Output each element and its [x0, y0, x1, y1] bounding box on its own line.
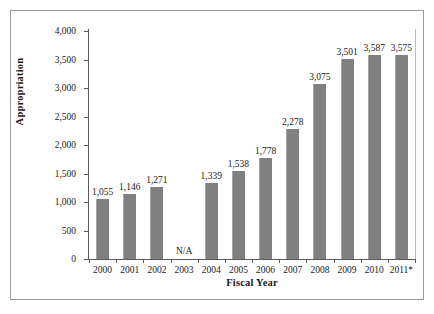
bar: [313, 84, 326, 259]
x-tick-mark: [361, 259, 362, 263]
bar: [368, 55, 381, 259]
y-tick-mark: [84, 145, 89, 146]
x-tick-mark: [279, 259, 280, 263]
y-tick-label: 2,000: [30, 140, 76, 150]
bar-value-label: 1,339: [189, 171, 233, 181]
bar-value-label: 3,575: [379, 43, 423, 53]
bar: [286, 129, 299, 259]
x-axis-title: Fiscal Year: [89, 277, 415, 288]
y-tick-label: 500: [30, 226, 76, 236]
x-tick-label: 2011*: [379, 265, 423, 276]
missing-data-label: N/A: [162, 246, 206, 256]
bar-value-label: 2,278: [271, 117, 315, 127]
x-tick-mark: [415, 259, 416, 263]
bar-value-label: 3,075: [298, 72, 342, 82]
plot-right-border: [415, 29, 416, 260]
y-tick-mark: [84, 231, 89, 232]
bar: [232, 171, 245, 259]
x-tick-mark: [143, 259, 144, 263]
y-tick-label: 1,500: [30, 169, 76, 179]
y-tick-label: 4,000: [30, 26, 76, 36]
bar: [123, 194, 136, 259]
x-tick-mark: [116, 259, 117, 263]
y-tick-mark: [84, 60, 89, 61]
y-tick-label: 3,500: [30, 55, 76, 65]
x-tick-mark: [334, 259, 335, 263]
y-tick-label: 2,500: [30, 112, 76, 122]
bar: [96, 199, 109, 259]
bar: [259, 158, 272, 259]
x-tick-mark: [171, 259, 172, 263]
figure: Appropriation Fiscal Year 05001,0001,500…: [0, 0, 434, 314]
y-tick-mark: [84, 31, 89, 32]
x-tick-mark: [225, 259, 226, 263]
bar-value-label: 1,271: [135, 175, 179, 185]
bar-value-label: 1,538: [216, 159, 260, 169]
y-axis-title: Appropriation: [14, 17, 25, 167]
y-tick-label: 1,000: [30, 197, 76, 207]
x-tick-mark: [252, 259, 253, 263]
x-tick-mark: [306, 259, 307, 263]
bar: [395, 55, 408, 259]
y-tick-mark: [84, 174, 89, 175]
bar: [341, 59, 354, 259]
bar-value-label: 1,778: [244, 146, 288, 156]
x-tick-mark: [198, 259, 199, 263]
bar: [205, 183, 218, 259]
y-tick-label: 0: [30, 254, 76, 264]
x-tick-mark: [388, 259, 389, 263]
y-tick-label: 3,000: [30, 83, 76, 93]
y-tick-mark: [84, 88, 89, 89]
x-tick-mark: [89, 259, 90, 263]
y-tick-mark: [84, 202, 89, 203]
y-tick-mark: [84, 117, 89, 118]
